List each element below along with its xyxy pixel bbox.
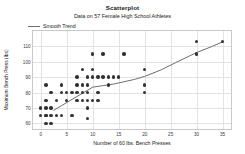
data-point (122, 52, 125, 55)
data-point (112, 75, 115, 78)
x-tick-label: 5 (65, 132, 68, 137)
y-axis-title: Maximum Bench Press (lbs) (4, 49, 9, 110)
x-tick-label: 25 (168, 132, 173, 137)
x-tick-label: 30 (194, 132, 199, 137)
chart-legend: Smooth Trend (28, 23, 76, 29)
data-point (75, 99, 78, 102)
data-point (60, 83, 63, 86)
data-point (44, 114, 47, 117)
data-point (107, 83, 110, 86)
data-point (49, 122, 52, 125)
data-point (75, 83, 78, 86)
chart-title: Scatterplot (0, 4, 245, 11)
y-tick-label: 100 (23, 59, 31, 64)
x-tick-label: 0 (40, 132, 43, 137)
data-point (49, 91, 52, 94)
plot-area: 60708090100110 05101520253035 (32, 30, 232, 130)
x-tick-label: 10 (90, 132, 95, 137)
data-point (55, 99, 58, 102)
data-point (96, 75, 99, 78)
data-point (44, 83, 47, 86)
data-point (70, 114, 73, 117)
data-point (44, 99, 47, 102)
data-point (75, 91, 78, 94)
data-point (101, 75, 104, 78)
data-point (96, 99, 99, 102)
data-point (75, 75, 78, 78)
x-tick-label: 20 (142, 132, 147, 137)
y-tick-label: 90 (25, 75, 30, 80)
data-point (143, 83, 146, 86)
x-axis-title: Number of 60 lbs. Bench Presses (32, 140, 232, 146)
y-tick-label: 110 (23, 44, 30, 49)
data-point (70, 91, 73, 94)
data-point (86, 75, 89, 78)
y-tick-label: 80 (25, 90, 30, 95)
data-point (101, 52, 104, 55)
data-point (81, 99, 84, 102)
data-point (44, 122, 47, 125)
scatterplot-figure: Scatterplot Data on 57 Female High Schoo… (0, 0, 245, 154)
chart-subtitle: Data on 57 Female High School Athletes (0, 13, 245, 19)
y-tick-label: 60 (25, 121, 30, 126)
data-point (96, 91, 99, 94)
x-tick-label: 15 (116, 132, 121, 137)
y-tick-label: 70 (25, 105, 30, 110)
legend-item-label: Smooth Trend (43, 23, 76, 29)
data-point (44, 106, 47, 109)
data-point (107, 75, 110, 78)
data-point (86, 106, 89, 109)
data-point (49, 106, 52, 109)
x-tick-label: 35 (220, 132, 225, 137)
smooth-trend-line-swatch (28, 26, 40, 27)
data-point (86, 83, 89, 86)
data-point (81, 83, 84, 86)
